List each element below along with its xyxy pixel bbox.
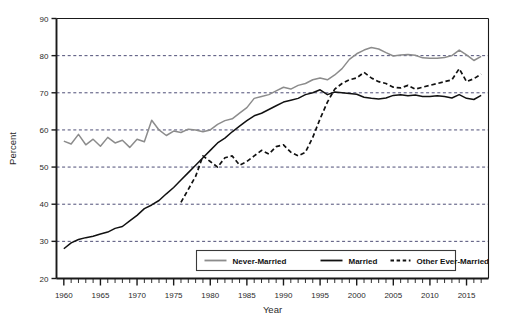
x-tick-label: 2000 (348, 291, 366, 300)
chart-canvas: 2030405060708090196019651970197519801985… (0, 0, 511, 329)
x-tick-label: 1980 (201, 291, 219, 300)
x-tick-label: 1985 (238, 291, 256, 300)
legend-label-married: Married (349, 257, 378, 266)
y-tick-label: 40 (40, 200, 49, 209)
legend-label-other-ever-married: Other Ever-Married (417, 257, 490, 266)
y-tick-label: 90 (40, 15, 49, 24)
legend-label-never-married: Never-Married (233, 257, 287, 266)
x-tick-label: 1995 (311, 291, 329, 300)
x-tick-label: 1960 (55, 291, 73, 300)
x-tick-label: 2010 (421, 291, 439, 300)
y-tick-label: 70 (40, 89, 49, 98)
x-axis-title: Year (263, 304, 282, 315)
y-tick-label: 30 (40, 237, 49, 246)
y-tick-label: 50 (40, 163, 49, 172)
x-tick-label: 1970 (128, 291, 146, 300)
x-tick-label: 2005 (384, 291, 402, 300)
y-tick-label: 80 (40, 52, 49, 61)
x-tick-label: 1990 (275, 291, 293, 300)
chart-figure: 2030405060708090196019651970197519801985… (0, 0, 511, 329)
y-tick-label: 60 (40, 126, 49, 135)
x-tick-label: 2015 (458, 291, 476, 300)
y-axis-title: Percent (7, 132, 18, 165)
x-tick-label: 1975 (165, 291, 183, 300)
y-tick-label: 20 (40, 275, 49, 284)
x-tick-label: 1965 (92, 291, 110, 300)
legend: Never-MarriedMarriedOther Ever-Married (197, 251, 490, 271)
